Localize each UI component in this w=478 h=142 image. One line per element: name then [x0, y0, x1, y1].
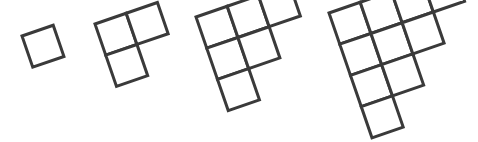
- pattern-figure-canvas: [0, 0, 478, 142]
